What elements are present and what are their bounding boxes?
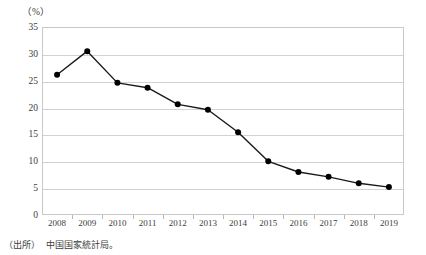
plot-wrapper: 2008: 26.1%2009: 30.5%2010: 24.6%2011: 2… — [42, 27, 404, 215]
y-axis-tick-label: 25 — [0, 76, 38, 86]
x-axis-tick-label: 2011 — [139, 218, 157, 228]
data-point-marker: 2019: 5.2% — [386, 184, 392, 190]
x-axis-tick-label: 2018 — [350, 218, 368, 228]
y-axis-tick-label: 15 — [0, 129, 38, 139]
data-point-marker: 2014: 15.4% — [235, 129, 241, 135]
data-point-marker: 2013: 19.6% — [205, 107, 211, 113]
x-axis-tick-label: 2013 — [199, 218, 217, 228]
data-point-marker: 2017: 7.1% — [326, 174, 332, 180]
x-axis-tick-labels: 2008200920102011201220132014201520162017… — [42, 218, 404, 234]
x-axis-tick-label: 2017 — [320, 218, 338, 228]
y-axis-tick-label: 20 — [0, 103, 38, 113]
y-axis-tick-label: 0 — [0, 210, 38, 220]
source-value: 中国国家統計局。 — [46, 240, 118, 250]
x-axis-tick-label: 2009 — [78, 218, 96, 228]
source-note: （出所）中国国家統計局。 — [4, 238, 118, 251]
data-point-marker: 2016: 8% — [295, 169, 301, 175]
y-axis-tick-label: 10 — [0, 156, 38, 166]
x-axis-tick-label: 2015 — [259, 218, 277, 228]
data-point-marker: 2012: 20.6% — [175, 101, 181, 107]
data-point-marker: 2008: 26.1% — [54, 72, 60, 78]
data-point-marker: 2010: 24.6% — [114, 80, 120, 86]
data-point-marker: 2018: 5.9% — [356, 180, 362, 186]
x-axis-tick-label: 2012 — [169, 218, 187, 228]
x-axis-tick-label: 2014 — [229, 218, 247, 228]
data-point-marker: 2015: 10% — [265, 158, 271, 164]
y-axis-tick-labels: 05101520253035 — [0, 27, 38, 215]
x-axis-tick-label: 2008 — [48, 218, 66, 228]
data-point-marker: 2009: 30.5% — [84, 48, 90, 54]
y-axis-tick-label: 30 — [0, 49, 38, 59]
series-line-layer: 2008: 26.1%2009: 30.5%2010: 24.6%2011: 2… — [42, 27, 404, 215]
y-axis-tick-label: 35 — [0, 22, 38, 32]
data-point-marker: 2011: 23.7% — [145, 85, 151, 91]
y-axis-tick-label: 5 — [0, 183, 38, 193]
source-label: （出所） — [4, 240, 40, 250]
y-axis-unit-label: （%） — [22, 4, 50, 18]
line-chart-figure: （%） 05101520253035 2008: 26.1%2009: 30.5… — [0, 0, 426, 255]
x-axis-tick-label: 2016 — [289, 218, 307, 228]
x-axis-tick-label: 2010 — [108, 218, 126, 228]
x-axis-tick-label: 2019 — [380, 218, 398, 228]
series-line — [57, 51, 389, 187]
